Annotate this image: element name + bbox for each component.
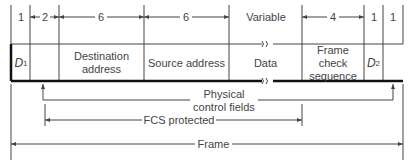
field-fcs: Frame check sequence [302, 45, 364, 81]
field-destination: Destination address [59, 45, 144, 81]
count-fcs: 4 [327, 11, 339, 24]
count-d2: 1 [367, 11, 381, 24]
count-destination: 6 [95, 11, 107, 24]
count-d1: 1 [14, 11, 28, 24]
field-source: Source address [144, 45, 229, 81]
field-d2: D2 [364, 45, 383, 81]
count-source: 6 [180, 11, 192, 24]
field-data: Data [229, 45, 302, 81]
field-d1: D1 [12, 45, 30, 81]
count-data: Variable [238, 11, 294, 24]
span-physical-control: Physical control fields [190, 88, 258, 114]
count-blank: 2 [40, 11, 50, 24]
span-frame: Frame [195, 138, 232, 151]
span-fcs-protected: FCS protected [142, 114, 216, 127]
count-end: 1 [386, 11, 400, 24]
